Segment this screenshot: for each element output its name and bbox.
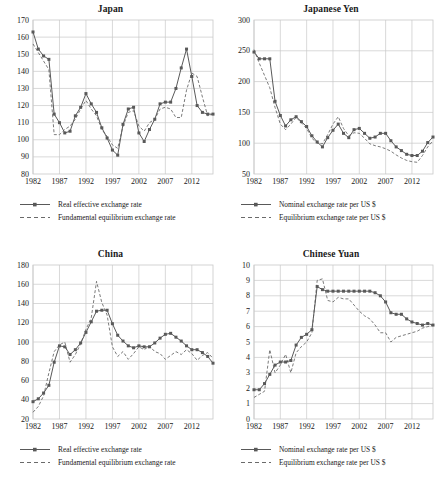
- series-marker: [374, 136, 377, 139]
- x-tick-label: 1987: [272, 177, 288, 186]
- series-marker: [331, 290, 334, 293]
- x-tick-label: 1982: [25, 422, 41, 431]
- x-tick-label: 1987: [51, 422, 67, 431]
- chart-legend: Nominal exchange rate per US $Equilibriu…: [221, 445, 441, 471]
- series-marker: [347, 290, 350, 293]
- y-tick-label: 300: [238, 16, 250, 25]
- legend-item: Nominal exchange rate per US $: [221, 200, 441, 209]
- series-marker: [69, 353, 72, 356]
- series-marker: [185, 48, 188, 51]
- legend-label: Real effective exchange rate: [58, 445, 142, 454]
- series-marker: [169, 332, 172, 335]
- plot-area-wrapper: 8090100110120130140150160170198219871992…: [0, 14, 221, 196]
- series-marker: [300, 336, 303, 339]
- chart-title: China: [0, 249, 221, 259]
- series-marker: [122, 340, 125, 343]
- y-tick-label: 90: [21, 152, 29, 161]
- series-marker: [206, 355, 209, 358]
- series-marker: [410, 320, 413, 323]
- legend-item: Equilibrium exchange rate per US $: [221, 213, 441, 222]
- series-marker: [190, 348, 193, 351]
- series-marker: [196, 348, 199, 351]
- series-marker: [353, 290, 356, 293]
- chart-panel-japanese_yen: Japanese Yen5010015020025030019821987199…: [221, 0, 441, 245]
- x-tick-label: 1982: [25, 177, 41, 186]
- series-marker: [74, 348, 77, 351]
- series-marker: [196, 104, 199, 107]
- series-marker: [132, 346, 135, 349]
- series-marker: [389, 139, 392, 142]
- legend-item: Equilibrium exchange rate per US $: [221, 458, 441, 467]
- y-tick-label: 9: [246, 276, 250, 285]
- x-tick-label: 2012: [404, 177, 420, 186]
- solid-line-marker-icon: [18, 445, 52, 454]
- series-marker: [53, 113, 56, 116]
- x-tick-label: 2007: [378, 177, 394, 186]
- series-marker: [258, 388, 261, 391]
- y-tick-label: 160: [17, 33, 29, 42]
- series-marker: [405, 317, 408, 320]
- dashed-line-icon: [239, 458, 273, 467]
- y-tick-label: 150: [238, 108, 250, 117]
- series-marker: [321, 145, 324, 148]
- series-marker: [284, 124, 287, 127]
- chart-title: Japanese Yen: [221, 4, 441, 14]
- series-marker: [347, 136, 350, 139]
- series-marker: [432, 136, 435, 139]
- series-marker: [331, 129, 334, 132]
- series-marker: [384, 132, 387, 135]
- solid-line-marker-icon: [18, 200, 52, 209]
- chart-panel-japan: Japan80901001101201301401501601701982198…: [0, 0, 221, 245]
- legend-label: Equilibrium exchange rate per US $: [279, 213, 386, 222]
- series-marker: [185, 344, 188, 347]
- series-marker: [274, 364, 277, 367]
- x-tick-label: 2012: [184, 177, 200, 186]
- chart-svg-japan: 8090100110120130140150160170198219871992…: [0, 14, 221, 196]
- series-marker: [400, 313, 403, 316]
- chart-svg-japanese_yen: 5010015020025030019821987199219972002200…: [221, 14, 441, 196]
- legend-item: Real effective exchange rate: [0, 445, 221, 454]
- series-marker: [174, 336, 177, 339]
- plot-area-wrapper: 5010015020025030019821987199219972002200…: [221, 14, 441, 196]
- x-tick-label: 1997: [104, 177, 120, 186]
- series-marker: [174, 87, 177, 90]
- series-marker: [400, 149, 403, 152]
- y-tick-label: 3: [246, 368, 250, 377]
- series-marker: [143, 140, 146, 143]
- legend-item: Real effective exchange rate: [0, 200, 221, 209]
- series-marker: [148, 128, 151, 131]
- x-tick-label: 1997: [325, 177, 341, 186]
- y-tick-label: 180: [17, 261, 29, 270]
- series-marker: [95, 111, 98, 114]
- legend-label: Nominal exchange rate per US $: [279, 445, 376, 454]
- figure-grid: Japan80901001101201301401501601701982198…: [0, 0, 441, 491]
- x-tick-label: 1992: [299, 422, 315, 431]
- y-tick-label: 7: [246, 307, 250, 316]
- series-marker: [95, 310, 98, 313]
- x-tick-label: 2002: [131, 422, 147, 431]
- series-marker: [426, 322, 429, 325]
- series-marker: [426, 141, 429, 144]
- y-tick-label: 100: [17, 338, 29, 347]
- series-marker: [268, 57, 271, 60]
- series-marker: [47, 58, 50, 61]
- series-marker: [368, 290, 371, 293]
- legend-label: Fundamental equilibrium exchange rate: [58, 213, 176, 222]
- y-tick-label: 130: [17, 84, 29, 93]
- series-marker: [253, 388, 256, 391]
- series-marker: [421, 150, 424, 153]
- x-tick-label: 1992: [78, 422, 94, 431]
- series-marker: [395, 145, 398, 148]
- y-tick-label: 100: [17, 135, 29, 144]
- legend-label: Nominal exchange rate per US $: [279, 200, 376, 209]
- series-marker: [379, 294, 382, 297]
- legend-label: Fundamental equilibrium exchange rate: [58, 458, 176, 467]
- series-marker: [337, 123, 340, 126]
- x-tick-label: 1997: [104, 422, 120, 431]
- chart-panel-chinese_yuan: Chinese Yuan0123456789101982198719921997…: [221, 245, 441, 491]
- series-marker: [384, 300, 387, 303]
- chart-svg-chinese_yuan: 0123456789101982198719921997200220072012: [221, 259, 441, 441]
- series-marker: [363, 290, 366, 293]
- y-tick-label: 250: [238, 46, 250, 55]
- legend-item: Nominal exchange rate per US $: [221, 445, 441, 454]
